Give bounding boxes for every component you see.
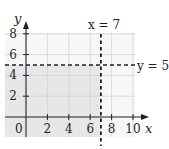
y-tick-label: 8 xyxy=(9,27,17,41)
y-tick-label: 4 xyxy=(9,68,17,82)
origin-label: 0 xyxy=(15,122,23,136)
x-equals-7-label: x = 7 xyxy=(88,18,120,32)
y-equals-5-label: y = 5 xyxy=(136,59,169,73)
y-axis-label: y xyxy=(13,11,22,26)
x-tick-label: 10 xyxy=(125,122,140,136)
x-tick-label: 4 xyxy=(65,122,73,136)
x-tick-label: 6 xyxy=(86,122,94,136)
y-tick-label: 6 xyxy=(9,48,17,62)
y-tick-label: 2 xyxy=(9,89,17,103)
x-axis-label: x xyxy=(145,121,153,136)
inequality-region-graph: y x 0 x = 7 y = 5 2468102468 xyxy=(0,0,169,149)
x-tick-label: 8 xyxy=(108,122,116,136)
x-tick-label: 2 xyxy=(44,122,52,136)
